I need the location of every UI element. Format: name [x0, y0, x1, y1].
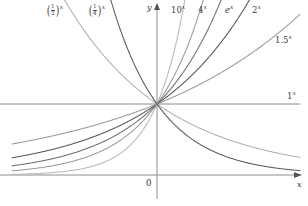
paren-close-half: ) — [55, 4, 59, 17]
paren-open-half: ( — [47, 4, 51, 17]
curve-label-ten: 10x — [171, 6, 185, 15]
curve-label-two: 2x — [252, 6, 261, 15]
curve-label-one-point-five-base: 1.5 — [275, 35, 289, 45]
y-axis-arrowhead — [154, 3, 160, 10]
curve-label-one: 1x — [287, 92, 296, 101]
fraction-quarter: 14 — [93, 4, 97, 17]
curve-10-x — [12, 0, 185, 174]
exponent-four: x — [203, 3, 206, 10]
y-axis-label: y — [147, 3, 152, 12]
curve-e-x — [12, 0, 222, 166]
curve-4-x — [12, 0, 203, 171]
exponent-ten: x — [182, 3, 185, 10]
curve--1-4-x — [111, 0, 300, 171]
curve-label-four: 4x — [198, 6, 207, 15]
curve-label-e: ex — [225, 6, 233, 15]
curves-group — [0, 0, 300, 174]
x-axis-label: x — [297, 180, 302, 189]
paren-close-quarter: ) — [97, 4, 101, 17]
curve-label-quarter: (14)x — [88, 4, 105, 17]
exponent-one: x — [292, 89, 295, 96]
x-axis-arrowhead — [294, 172, 302, 178]
paren-open-quarter: ( — [89, 4, 93, 17]
fraction-half: 12 — [51, 4, 55, 17]
fraction-quarter-denominator: 4 — [93, 10, 97, 17]
curve-label-one-point-five: 1.5x — [275, 36, 292, 45]
exponent-e: x — [230, 3, 233, 10]
curve-label-half: (12)x — [46, 4, 63, 17]
graph-canvas — [0, 0, 308, 206]
fraction-half-denominator: 2 — [51, 10, 55, 17]
exponent-quarter: x — [102, 3, 105, 10]
exponent-two: x — [257, 3, 260, 10]
exponent-one-point-five: x — [289, 33, 292, 40]
curve--1-2-x — [64, 0, 300, 157]
curve-1-5-x — [12, 14, 300, 144]
axes-group — [0, 3, 302, 199]
exponent-half: x — [60, 3, 63, 10]
exponential-functions-figure: (12)x (14)x 10x 4x ex 2x 1.5x 1x y x 0 — [0, 0, 308, 206]
origin-label: 0 — [146, 178, 151, 188]
curve-label-ten-base: 10 — [171, 5, 182, 15]
